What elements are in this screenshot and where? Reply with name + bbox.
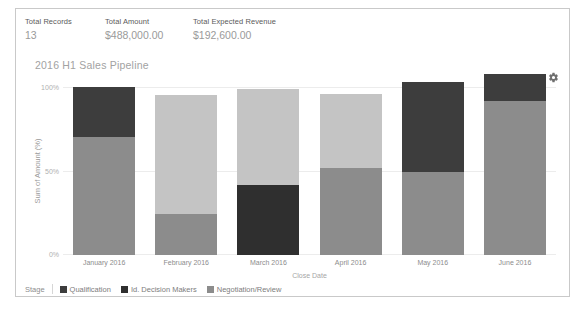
bar-column[interactable] [474,87,556,255]
bar-segment[interactable] [402,172,464,255]
legend-title: Stage [25,285,45,294]
metric-value: 13 [25,28,87,42]
report-card: Total Records 13 Total Amount $488,000.0… [15,8,570,297]
chart-title: 2016 H1 Sales Pipeline [35,59,149,71]
gear-icon[interactable] [546,70,560,84]
bar-stack [237,89,299,255]
chart-legend: Stage Qualification Id. Decision Makers … [16,281,569,297]
metric-total-records: Total Records 13 [25,16,87,42]
bar-segment[interactable] [320,168,382,255]
y-tick-100: 100% [41,84,59,91]
bar-stack [402,82,464,255]
plot-area: Sum of Amount (%) 100% 50% 0% [63,87,556,255]
x-axis-tick-labels: January 2016February 2016March 2016April… [63,259,556,266]
bar-segment[interactable] [73,137,135,255]
metric-value: $192,600.00 [193,28,276,42]
metric-label: Total Expected Revenue [193,16,276,27]
bar-segment[interactable] [320,94,382,168]
metric-total-expected-revenue: Total Expected Revenue $192,600.00 [193,16,276,42]
y-axis-title: Sum of Amount (%) [33,111,42,231]
bar-stack [320,94,382,255]
bar-column[interactable] [310,87,392,255]
bar-stack [73,87,135,255]
bar-segment[interactable] [237,185,299,255]
x-axis-label: February 2016 [145,259,227,266]
metric-value: $488,000.00 [105,28,175,42]
bar-series-container [63,87,556,255]
x-axis-label: June 2016 [474,259,556,266]
metric-label: Total Amount [105,16,175,27]
x-axis-label: March 2016 [227,259,309,266]
legend-item-label: Qualification [70,285,111,294]
bar-column[interactable] [392,87,474,255]
chart-panel: 2016 H1 Sales Pipeline Sum of Amount (%)… [25,57,562,289]
legend-item-label: Negotiation/Review [217,285,282,294]
legend-item-qualification[interactable]: Qualification [60,285,111,294]
y-tick-50: 50% [45,168,59,175]
metric-label: Total Records [25,16,87,27]
x-axis-label: May 2016 [392,259,474,266]
screenshot-viewport: Total Records 13 Total Amount $488,000.0… [0,0,585,310]
summary-metrics-bar: Total Records 13 Total Amount $488,000.0… [16,9,569,51]
legend-item-label: Id. Decision Makers [131,285,197,294]
legend-swatch [60,286,67,293]
bar-stack [155,95,217,255]
bar-segment[interactable] [484,101,546,255]
y-tick-0: 0% [49,251,59,258]
bar-segment[interactable] [237,89,299,185]
legend-divider [52,284,53,294]
x-axis-label: April 2016 [310,259,392,266]
legend-item-negotiation-review[interactable]: Negotiation/Review [207,285,282,294]
legend-item-id-decision-makers[interactable]: Id. Decision Makers [121,285,197,294]
bar-segment[interactable] [73,87,135,137]
legend-swatch [207,286,214,293]
bar-column[interactable] [227,87,309,255]
bar-segment[interactable] [155,214,217,255]
bar-stack [484,74,546,255]
bar-segment[interactable] [484,74,546,101]
x-axis-label: January 2016 [63,259,145,266]
bar-segment[interactable] [402,82,464,172]
legend-swatch [121,286,128,293]
x-axis-title: Close Date [63,272,556,279]
metric-total-amount: Total Amount $488,000.00 [105,16,175,42]
bar-column[interactable] [63,87,145,255]
bar-segment[interactable] [155,95,217,213]
bar-column[interactable] [145,87,227,255]
